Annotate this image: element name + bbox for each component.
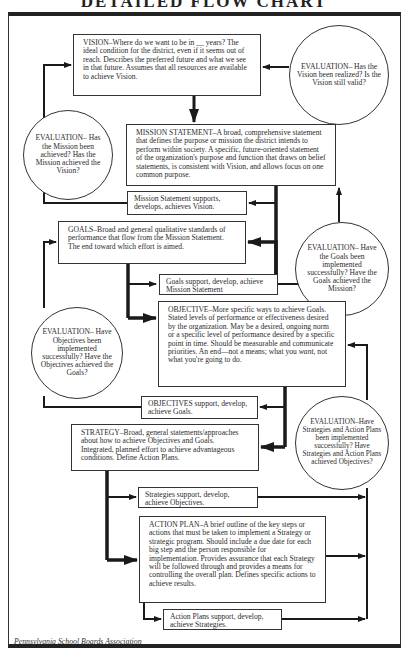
action-support-box: Action Plans support, develop, achieve S… [163, 609, 282, 630]
evaluation-objectives-circle: EVALUATION– Have Objectives been impleme… [31, 307, 123, 399]
vision-box: VISION–Where do we want to be in __ year… [73, 34, 261, 96]
strategy-text: STRATEGY–Broad, general statements/appro… [81, 428, 239, 462]
objective-box: OBJECTIVE–More specific ways to achieve … [158, 301, 346, 387]
evaluation-goals-text: EVALUATION– Have the Goals been implemen… [302, 244, 382, 293]
action-support-text: Action Plans support, develop, achieve S… [170, 612, 263, 629]
strategy-box: STRATEGY–Broad, general statements/appro… [71, 424, 259, 471]
evaluation-mission-text: EVALUATION– Has the Mission been achieve… [30, 134, 106, 175]
evaluation-strategies-circle: EVALUATION–Have Strategies and Action Pl… [295, 396, 389, 490]
mission-support-text: Mission Statement supports, develops, ac… [134, 194, 220, 211]
objectives-support-text: OBJECTIVES support, develop, achieve Goa… [148, 399, 247, 416]
evaluation-mission-circle: EVALUATION– Has the Mission been achieve… [23, 110, 113, 200]
evaluation-objectives-text: EVALUATION– Have Objectives been impleme… [38, 328, 116, 377]
strategies-support-box: Strategies support, develop, achieve Obj… [138, 487, 258, 508]
objective-text-italic: want [299, 347, 314, 356]
evaluation-vision-text: EVALUATION– Has the Vision been realized… [296, 63, 382, 88]
action-plan-box: ACTION PLAN–A brief outline of the key s… [139, 516, 326, 603]
vision-text: VISION–Where do we want to be in __ year… [83, 38, 247, 81]
goals-support-text: Goals support, develop, achieve Mission … [166, 277, 263, 294]
goals-box: GOALS–Broad and general qualitative stan… [58, 221, 246, 264]
evaluation-strategies-text: EVALUATION–Have Strategies and Action Pl… [302, 419, 382, 466]
action-plan-text: ACTION PLAN–A brief outline of the key s… [149, 520, 316, 588]
goals-text: GOALS–Broad and general qualitative stan… [68, 225, 226, 251]
footer-credit: Pennsylvania School Boards Association [14, 637, 142, 646]
mission-support-box: Mission Statement supports, develops, ac… [127, 191, 247, 215]
evaluation-vision-circle: EVALUATION– Has the Vision been realized… [289, 25, 389, 125]
strategies-support-text: Strategies support, develop, achieve Obj… [145, 490, 229, 507]
mission-statement-text: MISSION STATEMENT–A broad, comprehensive… [136, 128, 326, 179]
objectives-support-box: OBJECTIVES support, develop, achieve Goa… [141, 396, 258, 419]
mission-statement-box: MISSION STATEMENT–A broad, comprehensive… [126, 124, 336, 186]
goals-support-box: Goals support, develop, achieve Mission … [159, 274, 278, 295]
